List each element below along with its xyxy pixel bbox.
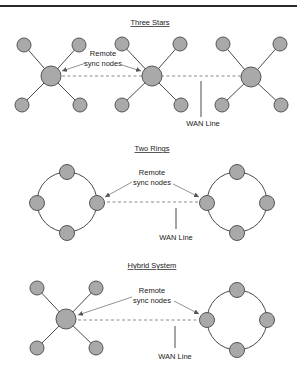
callout-arrow xyxy=(173,184,199,197)
star-2 xyxy=(115,37,188,112)
node xyxy=(230,165,245,180)
callout-line-1: Remote xyxy=(139,286,165,295)
sync-node xyxy=(200,313,215,328)
callout-arrow xyxy=(174,301,199,314)
node xyxy=(230,283,245,298)
star-3 xyxy=(215,37,288,112)
callout-line-2: sync nodes xyxy=(133,296,171,305)
callout-arrow xyxy=(105,182,132,197)
section-hybrid-system: Hybrid System WAN Line Remote sync nodes xyxy=(30,261,275,361)
wan-label: WAN Line xyxy=(159,233,192,242)
network-topology-diagram: Three Stars WAN Line xyxy=(0,0,297,379)
section-title: Hybrid System xyxy=(128,261,177,270)
callout-line-2: sync nodes xyxy=(84,59,122,68)
callout-arrow xyxy=(122,65,141,71)
node xyxy=(260,313,275,328)
node xyxy=(273,37,287,51)
section-title: Two Rings xyxy=(134,144,169,153)
sync-node xyxy=(90,196,105,211)
node xyxy=(30,341,44,355)
node xyxy=(115,37,129,51)
node xyxy=(216,37,230,51)
node xyxy=(30,281,44,295)
hub-node xyxy=(41,66,61,86)
section-three-stars: Three Stars WAN Line xyxy=(15,18,288,128)
node xyxy=(260,196,275,211)
node xyxy=(30,196,45,211)
wan-label: WAN Line xyxy=(158,352,191,361)
callout-line-2: sync nodes xyxy=(133,178,171,187)
callout-line-1: Remote xyxy=(90,49,116,58)
wan-label: WAN Line xyxy=(186,119,219,128)
node xyxy=(215,98,229,112)
node xyxy=(89,341,103,355)
node xyxy=(72,38,86,52)
node xyxy=(89,281,103,295)
node xyxy=(17,38,31,52)
callout-arrow xyxy=(62,63,86,71)
node xyxy=(15,98,29,112)
callout-arrow xyxy=(78,297,132,315)
hub-node xyxy=(56,309,76,329)
hybrid-star xyxy=(30,281,103,355)
section-title: Three Stars xyxy=(130,18,169,27)
sync-node xyxy=(200,196,215,211)
node xyxy=(274,98,288,112)
node xyxy=(73,98,87,112)
node xyxy=(230,343,245,358)
hub-node xyxy=(241,67,261,87)
node xyxy=(115,98,129,112)
hub-node xyxy=(142,66,162,86)
star-1 xyxy=(15,38,87,112)
node xyxy=(230,226,245,241)
ring-2 xyxy=(200,165,275,241)
ring-1 xyxy=(30,165,105,241)
node xyxy=(60,165,75,180)
node xyxy=(60,226,75,241)
callout-line-1: Remote xyxy=(139,168,165,177)
node xyxy=(173,37,187,51)
node xyxy=(174,98,188,112)
hybrid-ring xyxy=(200,283,275,358)
section-two-rings: Two Rings WAN Line Remote sync nodes xyxy=(30,144,275,242)
